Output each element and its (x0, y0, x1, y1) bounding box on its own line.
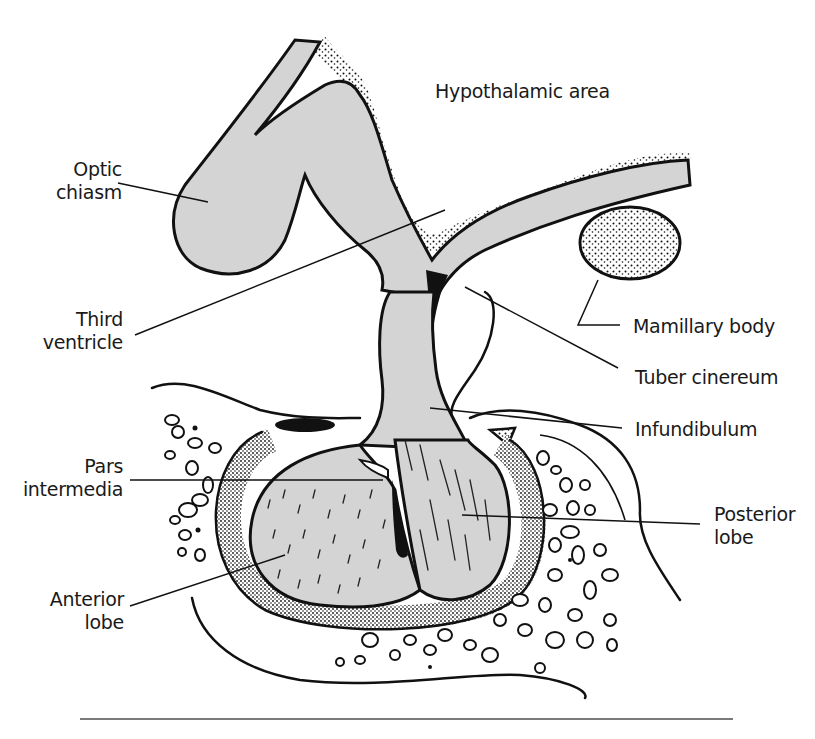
label-third-ventricle-line1: Third (20, 308, 123, 331)
label-posterior-lobe-line2: lobe (714, 526, 795, 549)
label-third-ventricle-line2: ventricle (20, 331, 123, 354)
label-third-ventricle: Third ventricle (20, 308, 123, 354)
label-mamillary-body: Mamillary body (633, 315, 775, 338)
label-anterior-lobe: Anterior lobe (20, 588, 124, 634)
label-anterior-lobe-line2: lobe (20, 611, 124, 634)
bone-trabeculae-left (165, 415, 221, 561)
label-optic-chiasm-line1: Optic (30, 158, 122, 181)
pituitary-diagram: Hypothalamic area Optic chiasm Third ven… (0, 0, 815, 739)
mamillary-body-shape (580, 207, 680, 279)
label-infundibulum: Infundibulum (635, 418, 757, 441)
label-optic-chiasm-line2: chiasm (30, 181, 122, 204)
label-pars-intermedia: Pars intermedia (10, 455, 123, 501)
infundibulum-shape (360, 292, 470, 450)
label-optic-chiasm: Optic chiasm (30, 158, 122, 204)
label-posterior-lobe-line1: Posterior (714, 503, 795, 526)
label-pars-intermedia-line2: intermedia (10, 478, 123, 501)
label-tuber-cinereum: Tuber cinereum (635, 366, 778, 389)
label-anterior-lobe-line1: Anterior (20, 588, 124, 611)
bottom-rule (80, 718, 733, 720)
label-posterior-lobe: Posterior lobe (714, 503, 795, 549)
label-hypothalamic-area: Hypothalamic area (435, 80, 610, 103)
label-pars-intermedia-line1: Pars (10, 455, 123, 478)
